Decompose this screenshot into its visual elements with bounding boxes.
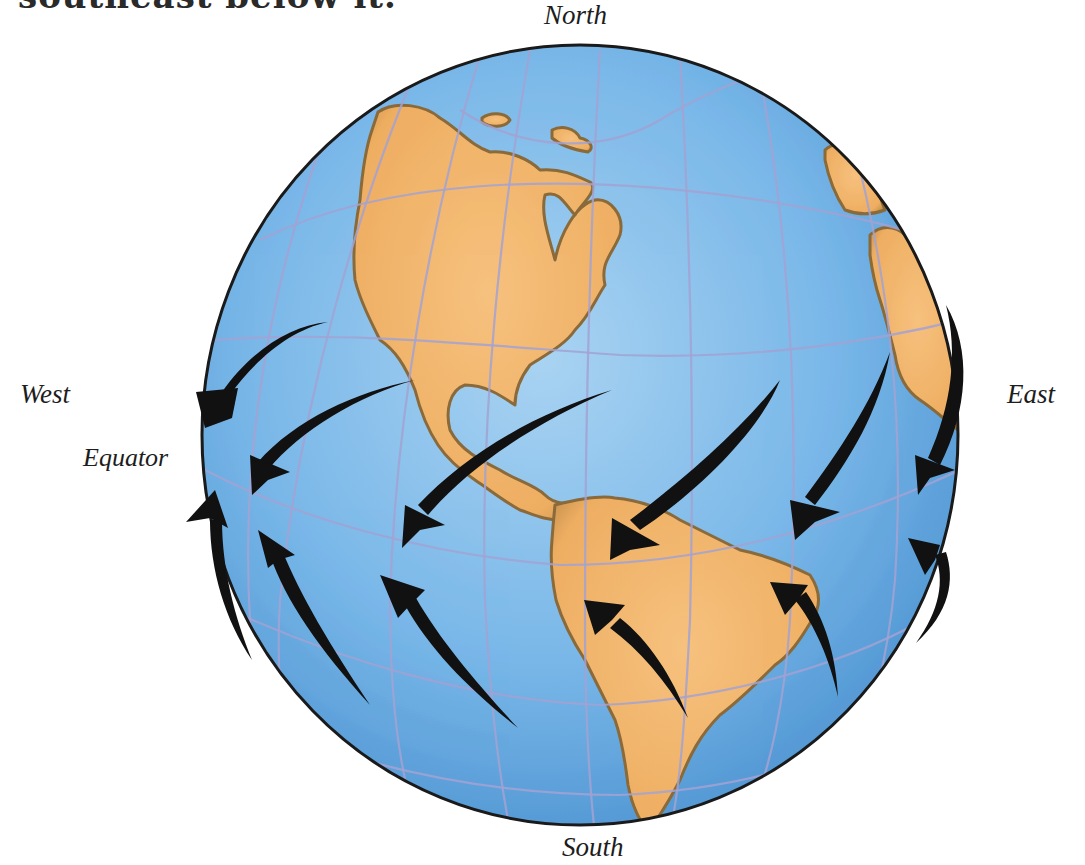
globe-diagram xyxy=(0,0,1085,865)
label-west: West xyxy=(20,379,70,410)
label-south: South xyxy=(562,832,624,863)
label-equator: Equator xyxy=(83,443,168,473)
label-north: North xyxy=(544,0,607,31)
label-east: East xyxy=(1007,379,1055,410)
